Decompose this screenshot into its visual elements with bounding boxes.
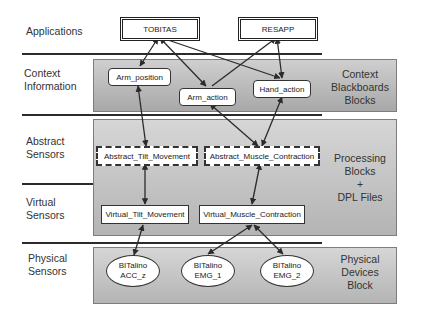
layer-label-context: Context Information <box>24 67 77 93</box>
layer-label-virtual: Virtual Sensors <box>26 196 65 222</box>
device-channel: ACC_z <box>120 271 145 281</box>
abstract-muscle-contraction-box: Abstract_Muscle_Contraction <box>204 146 320 166</box>
divider-virtual-physical <box>22 242 322 244</box>
device-bitalino-emg-1: BITalino EMG_1 <box>181 255 235 287</box>
caption-line: Context <box>330 68 390 81</box>
layer-label-physical: Physical Sensors <box>28 252 67 278</box>
layer-label-applications: Applications <box>26 25 83 38</box>
architecture-diagram: Applications Context Information Abstrac… <box>0 0 434 319</box>
caption-line: Devices <box>330 266 390 279</box>
caption-line: + <box>330 178 390 191</box>
caption-line: Physical <box>330 253 390 266</box>
app-resapp-box: RESAPP <box>238 17 318 41</box>
caption-line: Block <box>330 279 390 292</box>
device-bitalino-emg-2: BITalino EMG_2 <box>260 255 314 287</box>
device-channel: EMG_2 <box>273 271 300 281</box>
device-bitalino-acc-z: BITalino ACC_z <box>106 255 160 287</box>
divider-context-abstract <box>22 114 322 116</box>
device-name: BITalino <box>194 261 222 271</box>
virtual-tilt-movement-box: Virtual_Tilt_Movement <box>101 205 189 224</box>
context-hand-action-box: Hand_action <box>253 80 311 98</box>
divider-applications-context <box>22 53 322 55</box>
device-channel: EMG_1 <box>194 271 221 281</box>
caption-line: Blocks <box>330 165 390 178</box>
caption-line: Blackboards <box>330 81 390 94</box>
device-name: BITalino <box>119 261 147 271</box>
physical-devices-caption: Physical Devices Block <box>330 253 390 292</box>
layer-label-abstract: Abstract Sensors <box>26 135 65 161</box>
app-tobitas-box: TOBITAS <box>120 17 200 41</box>
caption-line: DPL Files <box>330 191 390 204</box>
caption-line: Blocks <box>330 94 390 107</box>
context-arm-action-box: Arm_action <box>179 88 236 106</box>
abstract-tilt-movement-box: Abstract_Tilt_Movement <box>96 146 198 166</box>
virtual-muscle-contraction-box: Virtual_Muscle_Contraction <box>199 205 305 224</box>
processing-blocks-caption: Processing Blocks + DPL Files <box>330 152 390 204</box>
device-name: BITalino <box>273 261 301 271</box>
context-arm-position-box: Arm_position <box>108 68 171 86</box>
context-blackboards-caption: Context Blackboards Blocks <box>330 68 390 107</box>
caption-line: Processing <box>330 152 390 165</box>
